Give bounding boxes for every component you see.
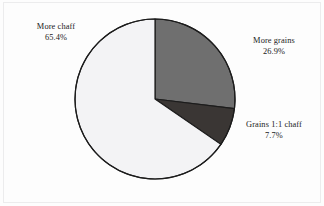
slice-label-grains-1-1-chaff: Grains 1:1 chaff 7.7%: [226, 120, 322, 141]
pie-slice-more-grains: [155, 19, 235, 109]
slice-label-more-chaff: More chaff 65.4%: [10, 22, 102, 43]
slice-label-more-grains: More grains 26.9%: [228, 36, 320, 57]
slice-label-more-grains-name: More grains: [228, 36, 320, 47]
slice-label-grains-1-1-chaff-percent: 7.7%: [226, 131, 322, 142]
pie-slices: [75, 19, 235, 179]
slice-label-more-grains-percent: 26.9%: [228, 47, 320, 58]
slice-label-grains-1-1-chaff-name: Grains 1:1 chaff: [226, 120, 322, 131]
slice-label-more-chaff-percent: 65.4%: [10, 33, 102, 44]
pie-chart-figure: More chaff 65.4% More grains 26.9% Grain…: [0, 0, 324, 206]
slice-label-more-chaff-name: More chaff: [10, 22, 102, 33]
